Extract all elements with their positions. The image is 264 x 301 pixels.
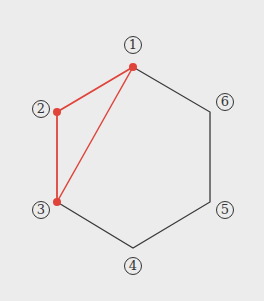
edge-1-3: [57, 67, 133, 202]
vertex-label-5: 5: [216, 201, 234, 219]
vertex-dot-3: [53, 198, 61, 206]
edge-1-6-5-4-3: [57, 67, 210, 248]
vertex-label-2: 2: [32, 100, 50, 118]
edge-1-2: [57, 67, 133, 112]
vertex-label-3: 3: [32, 201, 50, 219]
vertex-dot-2: [53, 108, 61, 116]
vertex-label-4: 4: [124, 257, 142, 275]
vertex-dot-1: [129, 63, 137, 71]
hexagon-diagram: 1 2 3 4 5 6: [0, 0, 264, 301]
vertex-label-1: 1: [124, 36, 142, 54]
vertex-label-6: 6: [216, 93, 234, 111]
